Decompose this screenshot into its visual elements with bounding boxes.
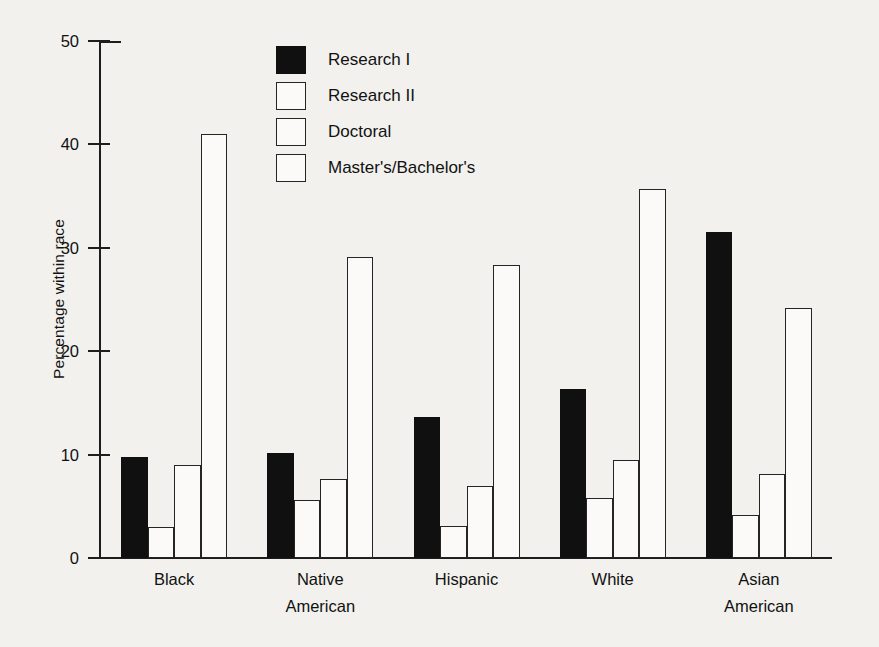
legend-swatch-icon bbox=[276, 82, 306, 110]
legend-label: Research I bbox=[328, 50, 410, 70]
legend-label: Master's/Bachelor's bbox=[328, 158, 475, 178]
y-axis-tick-label: 40 bbox=[19, 135, 79, 154]
bar bbox=[174, 465, 201, 558]
y-axis-tick-label: 20 bbox=[19, 342, 79, 361]
x-axis-label-line: Hispanic bbox=[384, 566, 550, 593]
bar-chart: Percentage within race 01020304050 Black… bbox=[0, 0, 879, 647]
bar bbox=[267, 453, 294, 558]
y-axis-tick-label: 30 bbox=[19, 238, 79, 257]
x-axis-label-line: White bbox=[530, 566, 696, 593]
y-axis-title: Percentage within race bbox=[50, 174, 68, 424]
bar bbox=[201, 134, 228, 558]
bar bbox=[759, 474, 786, 558]
bar bbox=[613, 460, 640, 558]
y-axis-tick-label: 50 bbox=[19, 32, 79, 51]
y-axis-tick-label: 10 bbox=[19, 445, 79, 464]
y-axis-tick-label: 0 bbox=[19, 549, 79, 568]
bar bbox=[347, 257, 374, 558]
x-axis-label-line: Native bbox=[237, 566, 403, 593]
bar bbox=[493, 265, 520, 558]
x-axis-label: Hispanic bbox=[384, 566, 550, 593]
x-axis-label: White bbox=[530, 566, 696, 593]
x-axis-label-line: Black bbox=[91, 566, 257, 593]
bar bbox=[706, 232, 733, 558]
legend-swatch-icon bbox=[276, 154, 306, 182]
x-axis-label-line: American bbox=[676, 593, 842, 620]
legend-label: Research II bbox=[328, 86, 415, 106]
x-axis-label: NativeAmerican bbox=[237, 566, 403, 620]
bar bbox=[414, 417, 441, 558]
bar bbox=[560, 389, 587, 558]
x-axis-label: Black bbox=[91, 566, 257, 593]
chart-legend: Research IResearch IIDoctoralMaster's/Ba… bbox=[276, 42, 606, 186]
bar bbox=[320, 479, 347, 558]
bar bbox=[732, 515, 759, 558]
legend-item: Doctoral bbox=[276, 114, 606, 150]
x-axis-label-line: Asian bbox=[676, 566, 842, 593]
x-axis-label-line: American bbox=[237, 593, 403, 620]
legend-swatch-icon bbox=[276, 46, 306, 74]
bar bbox=[121, 457, 148, 558]
legend-item: Research I bbox=[276, 42, 606, 78]
bar bbox=[467, 486, 494, 558]
x-axis-label: AsianAmerican bbox=[676, 566, 842, 620]
legend-swatch-icon bbox=[276, 118, 306, 146]
bar bbox=[440, 526, 467, 558]
bar bbox=[148, 527, 175, 558]
bar bbox=[639, 189, 666, 558]
legend-item: Master's/Bachelor's bbox=[276, 150, 606, 186]
bar bbox=[586, 498, 613, 558]
legend-label: Doctoral bbox=[328, 122, 391, 142]
legend-item: Research II bbox=[276, 78, 606, 114]
bar bbox=[785, 308, 812, 558]
bar bbox=[294, 500, 321, 558]
